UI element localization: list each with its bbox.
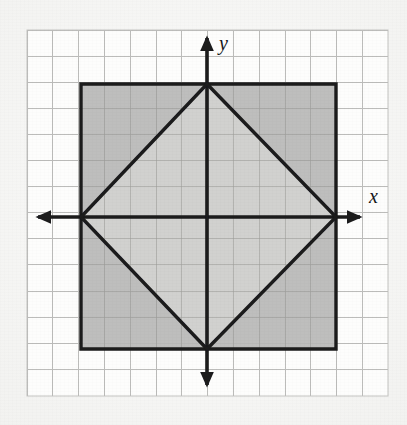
coordinate-plane-figure: y x [0,0,407,425]
figure-root: y x [0,0,407,425]
x-axis-label: x [368,185,378,207]
y-axis-label: y [217,32,228,55]
